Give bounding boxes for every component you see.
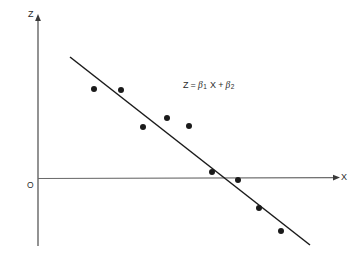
regression-scatter-figure: Z X O Z=β1 X+β2 <box>0 0 353 256</box>
data-point <box>118 87 124 93</box>
y-axis-label: Z <box>28 9 34 19</box>
origin-label: O <box>27 180 34 190</box>
x-axis-label: X <box>341 172 347 182</box>
data-point <box>140 124 146 130</box>
data-point <box>235 177 241 183</box>
equation-plus: + <box>217 80 226 90</box>
data-point <box>209 169 215 175</box>
data-point <box>164 115 170 121</box>
equation-equals: = <box>189 80 198 90</box>
plot-canvas <box>0 0 353 256</box>
equation-variable: X <box>210 80 217 90</box>
data-point-group <box>91 86 284 234</box>
data-point <box>91 86 97 92</box>
regression-equation-annotation: Z=β1 X+β2 <box>183 80 234 90</box>
data-point <box>256 205 262 211</box>
x-axis-line <box>38 178 336 179</box>
data-point <box>186 123 192 129</box>
data-point <box>278 228 284 234</box>
y-axis-arrowhead <box>35 14 41 21</box>
equation-slope-subscript: 1 <box>203 83 207 90</box>
x-axis-arrowhead <box>333 175 340 181</box>
equation-intercept-subscript: 2 <box>231 83 235 90</box>
axes-group <box>35 14 340 246</box>
